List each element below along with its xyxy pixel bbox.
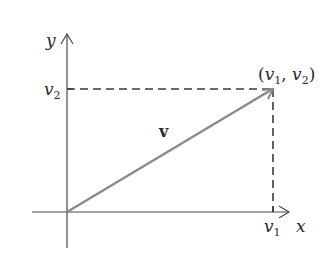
vector-diagram: y x v2 v1 v (v1, v2) bbox=[0, 0, 332, 263]
y-tick-label: v2 bbox=[44, 79, 61, 102]
diagram-svg: y x v2 v1 v (v1, v2) bbox=[0, 0, 332, 263]
x-axis-label: x bbox=[296, 216, 306, 236]
x-tick-label: v1 bbox=[264, 216, 281, 239]
vector-label: v bbox=[158, 122, 169, 141]
point-label: (v1, v2) bbox=[258, 64, 315, 87]
vector-v bbox=[67, 90, 271, 212]
y-axis-label: y bbox=[45, 30, 56, 50]
